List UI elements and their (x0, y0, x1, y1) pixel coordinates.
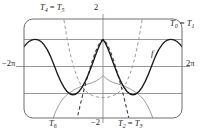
label-y-value-2: 2 (94, 3, 98, 12)
label-x-2pi: 2π (186, 59, 195, 68)
label-function-f: f (151, 49, 154, 58)
label-taylor-6: T6 (49, 119, 57, 129)
label-taylor-23: T2 = T3 (118, 119, 143, 129)
label-taylor-45: T4 = T5 (40, 3, 65, 13)
taylor-polynomial-figure: T4 = T5 2 T0 = T1 f −2π 2π T6 −2 T2 = T3 (0, 0, 205, 137)
label-x-neg-2pi: −2π (2, 59, 15, 68)
label-taylor-01: T0 = T1 (170, 19, 195, 29)
label-y-value-neg2: −2 (91, 118, 100, 127)
